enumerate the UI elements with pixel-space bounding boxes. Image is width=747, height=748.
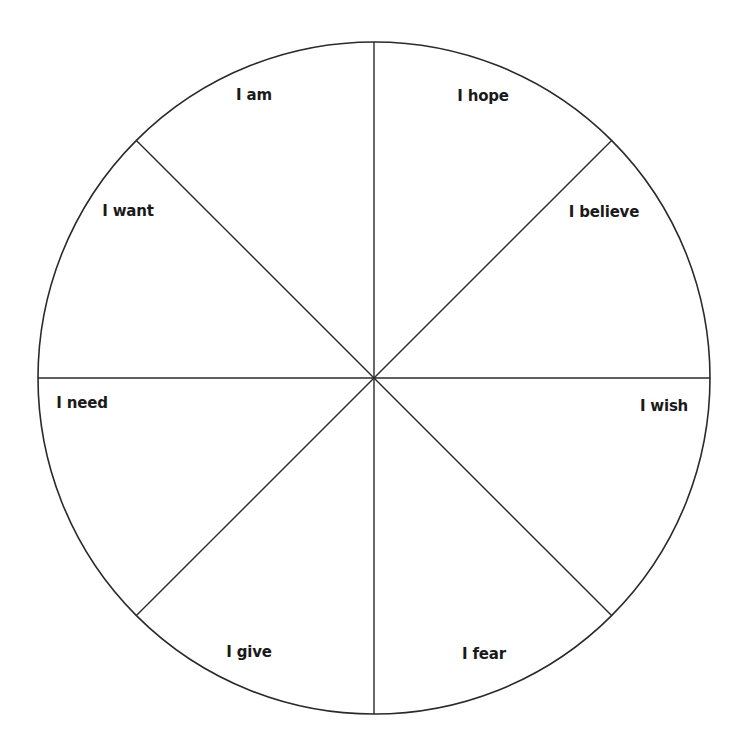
- segment-label-i-need: I need: [56, 394, 107, 412]
- wheel-diagram: [0, 0, 747, 748]
- segment-label-i-fear: I fear: [462, 645, 506, 663]
- segment-label-i-give: I give: [226, 643, 271, 661]
- segment-label-i-believe: I believe: [569, 203, 639, 221]
- segment-label-i-wish: I wish: [640, 397, 688, 415]
- segment-label-i-want: I want: [102, 202, 153, 220]
- segment-label-i-am: I am: [236, 86, 272, 104]
- segment-label-i-hope: I hope: [457, 87, 509, 105]
